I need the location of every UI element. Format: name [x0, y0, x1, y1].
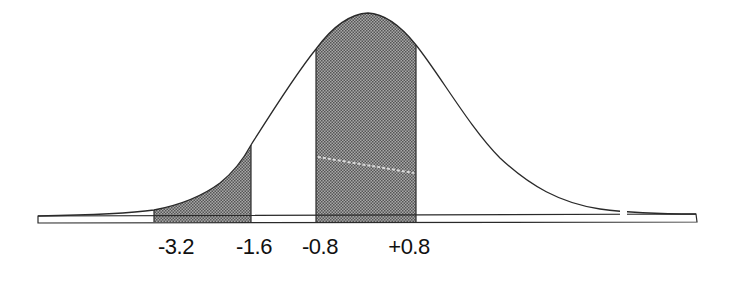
central-shaded-region [316, 13, 416, 222]
tick-label-pos-0-8: +0.8 [388, 234, 429, 260]
bell-curve-diagram [0, 0, 736, 283]
left-shaded-region [154, 145, 251, 222]
curve-gap [620, 210, 627, 216]
normal-distribution-figure: -3.2 -1.6 -0.8 +0.8 [0, 0, 736, 283]
tick-label-neg-1-6: -1.6 [236, 234, 272, 260]
tick-label-neg-0-8: -0.8 [302, 234, 338, 260]
tick-label-neg-3-2: -3.2 [158, 234, 194, 260]
